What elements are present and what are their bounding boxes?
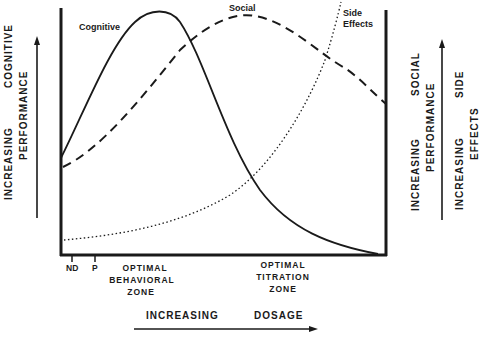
x-axis-arrow-icon: [134, 326, 318, 332]
svg-text:OPTIMAL: OPTIMAL: [260, 260, 305, 270]
svg-text:PERFORMANCE: PERFORMANCE: [18, 71, 29, 160]
right-axis-label-side-effects: INCREASING SIDE EFFECTS: [454, 71, 480, 210]
label-social: Social: [229, 3, 256, 13]
tick-label-nd: ND: [66, 263, 78, 273]
svg-text:ZONE: ZONE: [127, 287, 155, 297]
svg-text:INCREASING: INCREASING: [454, 137, 465, 210]
svg-text:SIDE: SIDE: [454, 71, 465, 98]
left-axis-arrow-icon: [34, 36, 40, 218]
label-side: Side: [343, 8, 362, 18]
svg-text:ZONE: ZONE: [269, 284, 297, 294]
label-effects: Effects: [343, 19, 373, 29]
tick-label-p: P: [92, 263, 98, 273]
x-axis-label-increasing: INCREASING: [146, 310, 219, 321]
svg-text:BEHAVIORAL: BEHAVIORAL: [109, 275, 175, 285]
svg-text:OPTIMAL: OPTIMAL: [122, 263, 167, 273]
right-axis-label-social: INCREASING SOCIAL PERFORMANCE: [410, 52, 436, 211]
svg-text:TITRATION: TITRATION: [256, 272, 310, 282]
svg-text:INCREASING: INCREASING: [410, 138, 421, 211]
optimal-titration-zone-label: OPTIMAL TITRATION ZONE: [256, 260, 310, 294]
side-effects-curve: [64, 2, 341, 240]
x-axis-label-dosage: DOSAGE: [254, 310, 303, 321]
svg-text:EFFECTS: EFFECTS: [469, 107, 480, 160]
optimal-behavioral-zone-label: OPTIMAL BEHAVIORAL ZONE: [109, 263, 175, 297]
svg-text:COGNITIVE: COGNITIVE: [3, 24, 14, 88]
svg-text:INCREASING: INCREASING: [3, 127, 14, 200]
cognitive-curve: [61, 12, 378, 255]
dosage-response-diagram: Cognitive Social Side Effects ND P OPTIM…: [0, 0, 486, 339]
left-axis-label: INCREASING COGNITIVE PERFORMANCE: [3, 24, 29, 200]
label-cognitive: Cognitive: [79, 22, 120, 32]
svg-text:PERFORMANCE: PERFORMANCE: [425, 83, 436, 172]
right-axis-arrow-icon: [439, 39, 445, 220]
social-curve: [63, 15, 386, 167]
svg-text:SOCIAL: SOCIAL: [410, 52, 421, 96]
